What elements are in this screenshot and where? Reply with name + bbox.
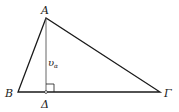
vertex-label-G: Γ — [163, 87, 172, 100]
vertex-label-B: B — [4, 87, 13, 100]
triangle-diagram: A B Γ Δ υα — [0, 0, 179, 112]
triangle-ABG — [18, 18, 160, 92]
foot-point-D — [45, 91, 48, 94]
vertex-label-A: A — [40, 4, 49, 17]
altitude-label-sub: α — [54, 62, 58, 69]
diagram-canvas: A B Γ Δ υα — [0, 0, 179, 112]
foot-label-D: Δ — [40, 98, 49, 111]
altitude-label: υα — [48, 57, 58, 69]
